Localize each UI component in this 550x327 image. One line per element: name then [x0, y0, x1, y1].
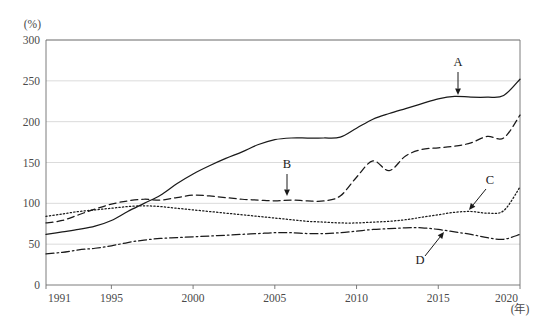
y-tick-label: 100 — [23, 197, 41, 209]
annotation-arrow-head-b — [284, 190, 290, 197]
series-annotations: ABCD — [283, 55, 494, 267]
y-tick-label: 150 — [23, 157, 41, 169]
annotation-arrow-head-a — [455, 89, 461, 96]
y-tick-label: 0 — [34, 279, 40, 291]
y-tick-label: 250 — [23, 75, 41, 87]
chart-container: 050100150200250300 199119952000200520102… — [0, 0, 550, 327]
x-tick-label: 1991 — [48, 292, 71, 304]
series-label-c: C — [486, 173, 494, 187]
y-axis-tick-labels: 050100150200250300 — [23, 34, 41, 291]
annotation-arrow-head-c — [469, 203, 475, 210]
series-label-a: A — [453, 55, 462, 69]
y-tick-label: 50 — [29, 238, 41, 250]
y-tick-label: 300 — [23, 34, 41, 46]
annotation-arrow-shaft-d — [425, 237, 440, 256]
x-tick-marks — [46, 285, 520, 289]
series-label-d: D — [415, 253, 424, 267]
y-axis-unit-label: (%) — [24, 18, 41, 31]
x-tick-label: 2015 — [427, 292, 450, 304]
x-tick-label: 2005 — [263, 292, 286, 304]
series-line-d — [46, 228, 520, 254]
x-tick-label: 2000 — [182, 292, 205, 304]
annotation-arrow-shaft-c — [473, 189, 486, 205]
x-tick-label: 1995 — [100, 292, 123, 304]
series-label-b: B — [283, 157, 291, 171]
x-axis-unit-label: (年) — [511, 302, 530, 316]
x-tick-label: 2010 — [345, 292, 368, 304]
y-tick-label: 200 — [23, 116, 41, 128]
x-axis-tick-labels: 1991199520002005201020152020 — [48, 292, 518, 304]
annotation-arrow-head-d — [438, 232, 444, 239]
grid-lines — [46, 40, 520, 244]
line-chart: 050100150200250300 199119952000200520102… — [0, 0, 550, 327]
